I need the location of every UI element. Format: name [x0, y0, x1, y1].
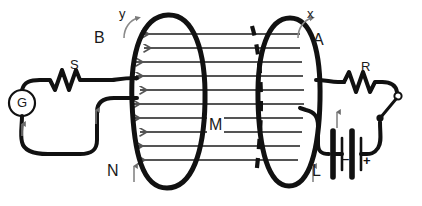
label-switch-left: S [70, 58, 79, 71]
label-rotation-left: y [119, 7, 126, 20]
magnetic-field-lines [133, 34, 304, 160]
label-coil-bottom-right: L [312, 163, 321, 179]
label-coil-top-right: A [313, 32, 324, 48]
label-rotation-right: x [307, 7, 314, 20]
circuit-diagram-svg [0, 0, 422, 206]
label-battery-negative: – [342, 152, 349, 165]
label-battery-positive: + [363, 154, 371, 167]
label-field-region: M [207, 117, 224, 133]
left-circuit-wiring [9, 70, 137, 154]
diagram-canvas: B A N L M y x S R G – + [0, 0, 422, 206]
left-coil [132, 15, 205, 188]
label-resistor-right: R [361, 60, 370, 73]
label-galvanometer: G [17, 96, 27, 109]
label-coil-bottom-left: N [107, 163, 119, 179]
label-coil-top-left: B [94, 30, 105, 46]
